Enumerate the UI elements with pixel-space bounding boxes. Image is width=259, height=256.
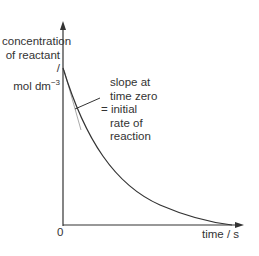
y-label-line-3: mol dm−3 [2,76,60,93]
annotation-line: slope at [110,76,190,90]
annotation-line: = initial [101,103,190,117]
annotation-pointer [75,98,100,109]
x-axis-label: time / s [202,228,239,242]
origin-label: 0 [57,226,63,240]
y-label-line-1: concentration [2,35,60,49]
y-axis-label: concentration of reactant / mol dm−3 [2,35,60,93]
y-label-line-2: of reactant / [2,49,60,76]
tangent-annotation: slope at time zero = initial rate of rea… [110,76,190,144]
annotation-line: reaction [110,130,190,144]
annotation-line: time zero [110,90,190,104]
y-axis-arrow-icon [60,21,66,30]
annotation-line: rate of [110,117,190,131]
